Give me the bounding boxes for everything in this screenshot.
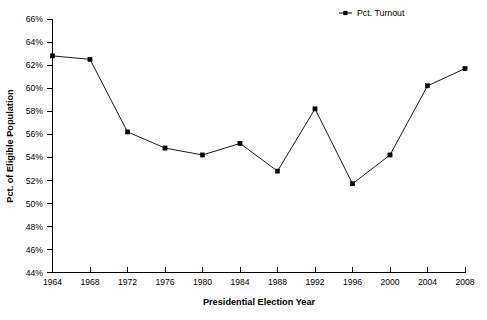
y-tick-label: 52%	[26, 176, 44, 186]
x-tick-label: 1968	[80, 277, 99, 287]
y-axis-title: Pct. of Eligible Population	[5, 89, 15, 203]
x-tick-label: 1984	[230, 277, 249, 287]
legend-entry-label: Pct. Turnout	[357, 8, 405, 18]
data-point-marker	[350, 182, 354, 186]
data-point-marker	[463, 66, 467, 70]
legend-marker-swatch	[343, 11, 347, 15]
turnout-line-chart: Pct. Turnout 44%46%48%50%52%54%56%58%60%…	[0, 0, 487, 320]
data-point-marker	[238, 141, 242, 145]
x-tick-label: 1992	[305, 277, 324, 287]
data-point-marker	[388, 153, 392, 157]
y-tick-label: 46%	[26, 245, 44, 255]
data-point-marker	[50, 54, 54, 58]
data-point-marker	[425, 84, 429, 88]
x-tick-label: 2004	[418, 277, 437, 287]
y-tick-label: 48%	[26, 222, 44, 232]
data-point-marker	[275, 169, 279, 173]
x-tick-label: 1996	[343, 277, 362, 287]
x-tick-label: 1976	[155, 277, 174, 287]
x-axis-title: Presidential Election Year	[203, 297, 316, 307]
y-tick-label: 62%	[26, 60, 44, 70]
x-tick-label: 1988	[268, 277, 287, 287]
y-tick-label: 58%	[26, 106, 44, 116]
x-tick-label: 1972	[118, 277, 137, 287]
data-point-marker	[125, 130, 129, 134]
x-tick-label: 1964	[43, 277, 62, 287]
y-tick-label: 50%	[26, 199, 44, 209]
x-tick-label: 1980	[193, 277, 212, 287]
data-point-marker	[163, 146, 167, 150]
y-tick-label: 56%	[26, 129, 44, 139]
data-point-marker	[313, 107, 317, 111]
x-tick-label: 2008	[455, 277, 474, 287]
y-tick-label: 44%	[26, 268, 44, 278]
y-tick-label: 60%	[26, 83, 44, 93]
x-tick-label: 2000	[380, 277, 399, 287]
y-tick-label: 54%	[26, 152, 44, 162]
chart-container: Pct. Turnout 44%46%48%50%52%54%56%58%60%…	[0, 0, 487, 320]
y-tick-label: 64%	[26, 37, 44, 47]
data-point-marker	[88, 57, 92, 61]
data-point-marker	[200, 153, 204, 157]
y-tick-label: 66%	[26, 14, 44, 24]
